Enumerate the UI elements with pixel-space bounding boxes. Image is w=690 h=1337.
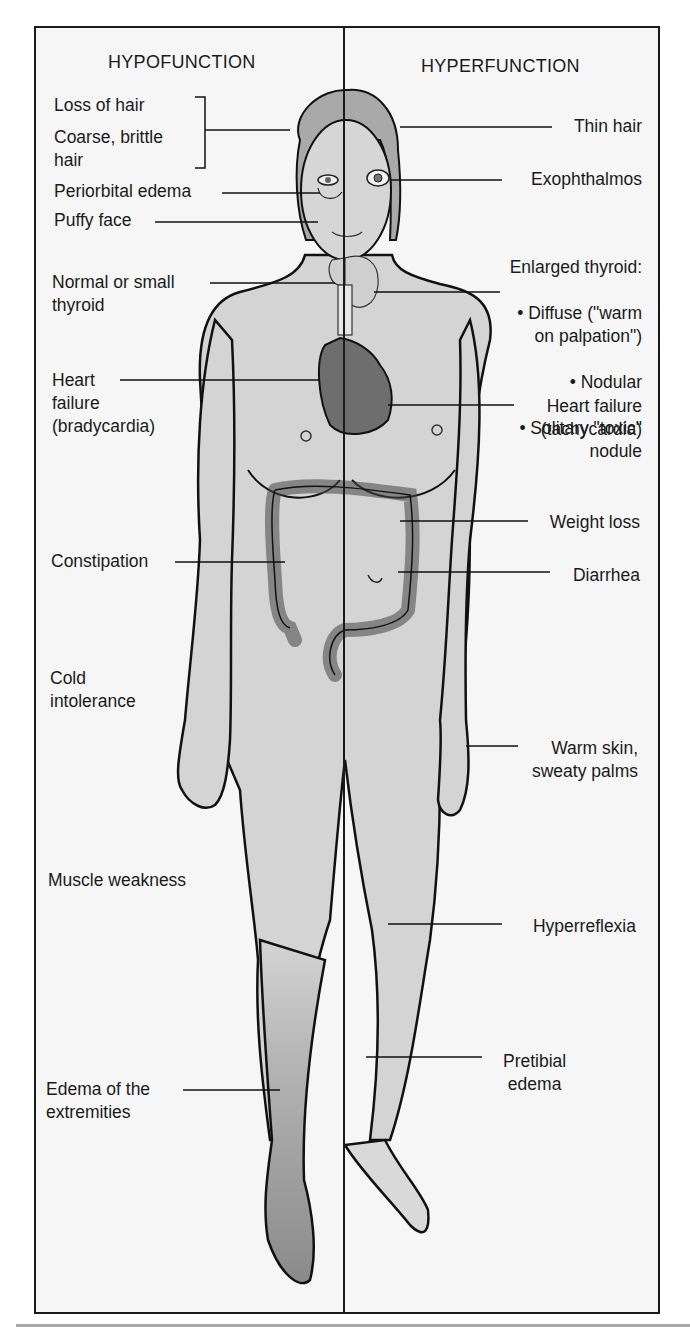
label-thin-hair: Thin hair [574,115,642,138]
label-enlarged-thyroid: Enlarged thyroid: • Diffuse ("warm on pa… [510,233,642,486]
hyperfunction-heading: HYPERFUNCTION [421,56,580,77]
label-warm-skin-sweaty-palms: Warm skin, sweaty palms [532,737,638,783]
label-hyperreflexia: Hyperreflexia [533,915,636,938]
label-edema-extremities: Edema of the extremities [46,1078,150,1124]
label-coarse-brittle-hair: Coarse, brittle hair [54,126,163,172]
bullet-nodular: • Nodular [510,371,642,394]
trachea [338,285,352,335]
bottom-rule [16,1324,690,1327]
label-weight-loss: Weight loss [550,511,640,534]
label-diarrhea: Diarrhea [573,564,640,587]
label-loss-of-hair: Loss of hair [54,94,144,117]
center-divider [343,26,345,1314]
label-periorbital-edema: Periorbital edema [54,180,191,203]
label-heart-failure-bradycardia: Heart failure (bradycardia) [52,369,155,438]
label-heart-failure-tachycardia: Heart failure (tachycardia) [541,395,642,441]
edematous-leg [260,940,325,1283]
label-cold-intolerance: Cold intolerance [50,667,136,713]
label-pretibial-edema: Pretibial edema [503,1050,566,1096]
enlarged-thyroid-title: Enlarged thyroid: [510,256,642,279]
label-puffy-face: Puffy face [54,209,132,232]
label-normal-small-thyroid: Normal or small thyroid [52,271,175,317]
label-constipation: Constipation [51,550,148,573]
face [301,120,391,260]
hypofunction-heading: HYPOFUNCTION [108,52,256,73]
label-muscle-weakness: Muscle weakness [48,869,186,892]
label-exophthalmos: Exophthalmos [531,168,642,191]
bullet-diffuse: • Diffuse ("warm on palpation") [510,302,642,348]
right-foot [345,1140,428,1232]
